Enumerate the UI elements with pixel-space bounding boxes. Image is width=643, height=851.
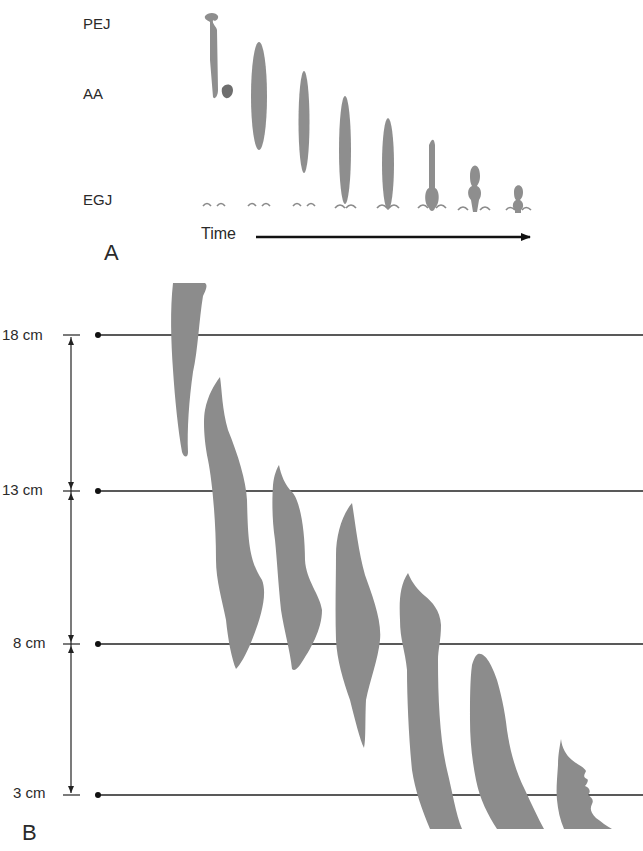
bolus-frame-2 (251, 42, 267, 150)
dimension-scale (63, 335, 80, 795)
bolus-profile-6 (470, 654, 544, 829)
bolus-profile-5 (400, 573, 462, 829)
bolus-profile-2 (204, 377, 264, 669)
level-dots (95, 332, 101, 798)
bolus-profile-1 (171, 283, 206, 457)
bolus-profiles (171, 283, 612, 829)
egj-markers (203, 204, 531, 211)
diagram-canvas (0, 0, 643, 851)
bolus-frame-1 (205, 13, 218, 98)
bolus-frame-5 (382, 118, 394, 210)
panel-a-sequence (205, 13, 523, 213)
bolus-profile-7 (557, 739, 612, 829)
bolus-frame-7 (468, 166, 481, 213)
bolus-profile-4 (336, 503, 381, 748)
bolus-frame-3 (299, 71, 310, 173)
bolus-frame-4 (339, 96, 351, 204)
bolus-profile-3 (272, 465, 322, 670)
aa-contraction-frame-1 (222, 84, 233, 98)
bolus-frame-6 (425, 140, 439, 211)
